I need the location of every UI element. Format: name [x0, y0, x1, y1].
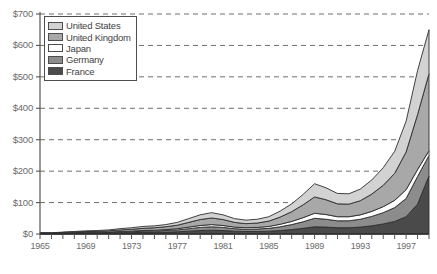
x-axis-tick-label: 1997	[386, 241, 426, 251]
x-axis-tick-label: 1985	[249, 241, 289, 251]
y-axis-tick-label: $0	[0, 228, 33, 239]
y-axis-tick-label: $500	[0, 71, 33, 82]
legend-swatch-france	[48, 67, 63, 75]
legend-item-japan: Japan	[48, 43, 131, 54]
legend-item-france: France	[48, 66, 131, 77]
legend-item-germany: Germany	[48, 54, 131, 65]
legend-label-united-kingdom: United Kingdom	[66, 32, 131, 43]
x-axis-tick-label: 1993	[340, 241, 380, 251]
x-axis-tick-label: 1965	[20, 241, 60, 251]
chart-container: United States United Kingdom Japan Germa…	[0, 0, 437, 274]
legend-item-united-kingdom: United Kingdom	[48, 31, 131, 42]
y-axis-tick-label: $300	[0, 134, 33, 145]
x-axis-tick-label: 1977	[157, 241, 197, 251]
legend-label-japan: Japan	[66, 43, 91, 54]
legend-swatch-japan	[48, 44, 63, 52]
chart-legend: United States United Kingdom Japan Germa…	[44, 16, 137, 81]
x-axis-tick-label: 1973	[112, 241, 152, 251]
y-axis-tick-label: $700	[0, 8, 33, 19]
legend-item-united-states: United States	[48, 20, 131, 31]
legend-label-united-states: United States	[66, 20, 120, 31]
legend-label-france: France	[66, 66, 94, 77]
legend-swatch-united-states	[48, 22, 63, 30]
legend-swatch-united-kingdom	[48, 33, 63, 41]
y-axis-tick-label: $100	[0, 197, 33, 208]
x-axis-tick-label: 1969	[66, 241, 106, 251]
y-axis-tick-label: $600	[0, 39, 33, 50]
y-axis-tick-label: $400	[0, 102, 33, 113]
x-axis-tick-label: 1989	[295, 241, 335, 251]
legend-swatch-germany	[48, 56, 63, 64]
y-axis-tick-label: $200	[0, 165, 33, 176]
legend-label-germany: Germany	[66, 54, 104, 65]
x-axis-tick-label: 1981	[203, 241, 243, 251]
